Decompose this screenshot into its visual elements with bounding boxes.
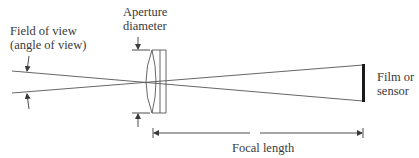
aperture-label-line1: Aperture xyxy=(123,5,167,19)
sensor-bar xyxy=(362,64,365,102)
field-of-view-label-line1: Field of view xyxy=(10,24,86,38)
field-of-view-arrows xyxy=(27,56,29,109)
sensor-label-line1: Film or xyxy=(377,70,414,84)
light-rays xyxy=(12,65,363,101)
lens-icon xyxy=(146,50,166,113)
focal-length-label: Focal length xyxy=(232,141,294,155)
sensor-label: Film or sensor xyxy=(377,70,414,98)
aperture-label: Aperture diameter xyxy=(123,5,167,33)
field-of-view-label-line2: (angle of view) xyxy=(10,38,86,52)
sensor-label-line2: sensor xyxy=(377,84,414,98)
aperture-label-line2: diameter xyxy=(123,19,167,33)
field-of-view-label: Field of view (angle of view) xyxy=(10,24,86,52)
focal-length-dimension xyxy=(153,128,363,138)
